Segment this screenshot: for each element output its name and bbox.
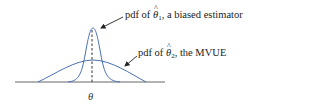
- pdf2-label: pdf of ^θ2, the MVUE: [138, 47, 226, 62]
- hat-mark: ^: [154, 3, 158, 15]
- biased-pdf-curve: [68, 28, 120, 82]
- pdf2-prefix: pdf of: [138, 47, 166, 58]
- theta-axis-label: θ: [88, 91, 93, 102]
- pdf1-prefix: pdf of: [125, 9, 153, 20]
- hat-mark: ^: [167, 41, 171, 53]
- pdf1-suffix: , a biased estimator: [162, 9, 243, 20]
- pdf1-label: pdf of ^θ1, a biased estimator: [125, 9, 243, 24]
- theta2-symbol: ^θ: [166, 47, 171, 59]
- theta1-symbol: ^θ: [153, 9, 158, 21]
- pdf2-arrow: [125, 56, 137, 66]
- pdf1-arrow: [101, 17, 123, 28]
- pdf2-suffix: , the MVUE: [175, 47, 227, 58]
